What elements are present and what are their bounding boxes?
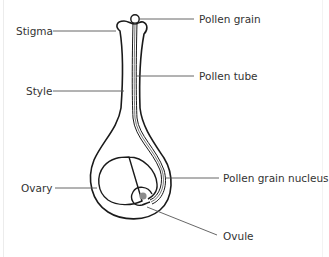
label-stigma: Stigma bbox=[16, 25, 53, 37]
label-pollen-grain: Pollen grain bbox=[199, 13, 261, 25]
pollen-grain bbox=[131, 15, 139, 23]
label-pollen-tube: Pollen tube bbox=[199, 70, 258, 82]
ovule-nucleus bbox=[139, 192, 146, 199]
pollen-tube-mid bbox=[134, 23, 163, 202]
label-pollen-grain-nucleus: Pollen grain nucleus bbox=[223, 172, 329, 184]
label-style: Style bbox=[26, 85, 52, 97]
ovary-cavity bbox=[99, 157, 157, 205]
leader-ovule bbox=[147, 207, 217, 235]
label-ovule: Ovule bbox=[223, 230, 254, 242]
pistil-outline bbox=[90, 21, 171, 219]
label-ovary: Ovary bbox=[21, 182, 52, 194]
